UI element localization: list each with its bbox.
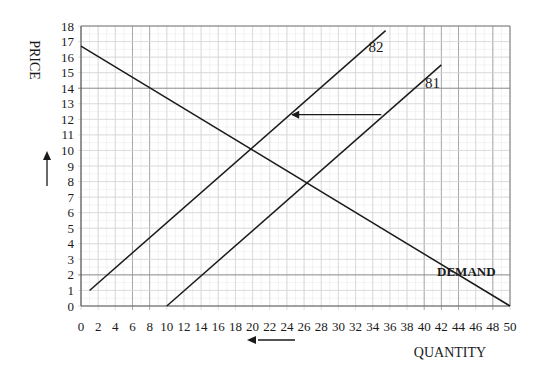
s1-label: 81 [425, 75, 440, 91]
x-tick-label: 6 [129, 319, 136, 334]
x-tick-label: 10 [160, 319, 173, 334]
y-tick-label: 13 [61, 96, 74, 111]
x-tick-label: 14 [195, 319, 209, 334]
x-tick-label: 18 [229, 319, 242, 334]
x-tick-label: 8 [146, 319, 153, 334]
x-tick-label: 24 [280, 319, 294, 334]
x-tick-label: 32 [349, 319, 362, 334]
y-tick-label: 11 [61, 127, 74, 142]
x-tick-label: 50 [504, 319, 517, 334]
y-tick-label: 8 [68, 174, 75, 189]
x-tick-label: 20 [246, 319, 259, 334]
x-tick-label: 2 [95, 319, 102, 334]
x-tick-label: 40 [418, 319, 431, 334]
y-tick-label: 3 [68, 252, 75, 267]
x-tick-label: 4 [112, 319, 119, 334]
y-tick-label: 2 [68, 267, 75, 282]
y-tick-label: 10 [61, 143, 74, 158]
price-up-arrow-icon [43, 151, 51, 160]
x-tick-label: 0 [78, 319, 85, 334]
x-tick-label: 28 [315, 319, 328, 334]
tick-labels: 0123456789101112131415161718024681012141… [61, 19, 517, 335]
y-tick-label: 14 [61, 81, 75, 96]
y-tick-label: 9 [68, 159, 75, 174]
x-axis-title: QUANTITY [414, 345, 486, 360]
y-tick-label: 7 [68, 190, 75, 205]
x-tick-label: 30 [332, 319, 345, 334]
s2-label: 82 [368, 39, 383, 55]
supply-demand-chart: 0123456789101112131415161718024681012141… [0, 0, 543, 386]
x-tick-label: 34 [366, 319, 380, 334]
y-tick-label: 18 [61, 19, 74, 34]
x-tick-label: 42 [435, 319, 448, 334]
x-tick-label: 38 [401, 319, 414, 334]
quantity-down-arrow-icon [247, 336, 256, 344]
x-tick-label: 26 [298, 319, 312, 334]
y-tick-label: 6 [68, 205, 75, 220]
y-axis-title: PRICE [27, 40, 42, 80]
x-tick-label: 46 [469, 319, 483, 334]
y-tick-label: 15 [61, 65, 74, 80]
x-tick-label: 12 [177, 319, 190, 334]
x-tick-label: 16 [212, 319, 226, 334]
demand-label: DEMAND [437, 264, 496, 279]
y-tick-label: 17 [61, 34, 75, 49]
x-tick-label: 22 [263, 319, 276, 334]
y-tick-label: 5 [68, 221, 75, 236]
annotations [43, 111, 381, 344]
y-tick-label: 4 [68, 236, 75, 251]
y-tick-label: 0 [68, 299, 75, 314]
y-tick-label: 16 [61, 50, 75, 65]
x-tick-label: 44 [452, 319, 466, 334]
y-tick-label: 1 [68, 283, 75, 298]
x-tick-label: 48 [486, 319, 499, 334]
x-tick-label: 36 [383, 319, 397, 334]
y-tick-label: 12 [61, 112, 74, 127]
